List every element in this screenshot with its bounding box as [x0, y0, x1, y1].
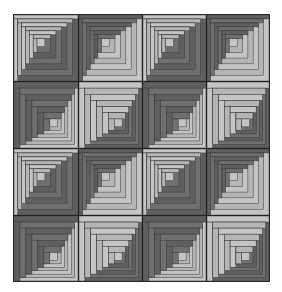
quilt-block [143, 82, 207, 149]
quilt-block [79, 149, 143, 216]
quilt-block [207, 15, 269, 82]
quilt-block [143, 149, 207, 216]
quilt-block [14, 149, 79, 216]
quilt-block [79, 82, 143, 149]
quilt-block [14, 216, 79, 281]
quilt-block [14, 15, 79, 82]
quilt-block [79, 15, 143, 82]
quilt-block [143, 15, 207, 82]
quilt-block [207, 216, 269, 281]
quilt-block [14, 82, 79, 149]
quilt-block [207, 149, 269, 216]
quilt-block [143, 216, 207, 281]
quilt-block [79, 216, 143, 281]
quilt-block [207, 82, 269, 149]
log-cabin-quilt [13, 14, 270, 282]
